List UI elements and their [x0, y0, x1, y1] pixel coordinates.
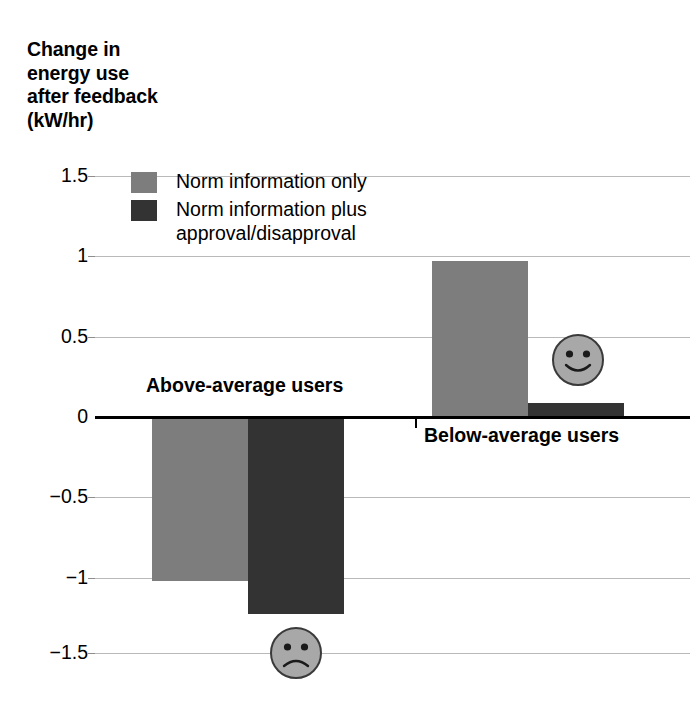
- y-tick-label: −1: [26, 568, 88, 588]
- y-tick-label: 0.5: [26, 327, 88, 347]
- legend-item-label: Norm information plus approval/disapprov…: [176, 198, 367, 245]
- category-label-below-average: Below-average users: [424, 426, 619, 446]
- zero-axis-line: [95, 416, 690, 419]
- y-tick-label: −0.5: [26, 487, 88, 507]
- page-artifact: [70, 8, 74, 28]
- sad-face-icon: [269, 626, 323, 680]
- bar-above-average-norm-plus-approval: [248, 417, 344, 614]
- zero-axis-tick: [415, 419, 417, 428]
- y-tick-label: 0: [26, 407, 88, 427]
- y-tick-label: 1.5: [26, 166, 88, 186]
- legend-item-norm-only: Norm information only: [131, 170, 367, 194]
- y-axis-tick-labels: 1.5 1 0.5 0 −0.5 −1 −1.5: [18, 176, 88, 653]
- legend-swatch-icon: [131, 172, 157, 193]
- gridline: [95, 256, 690, 257]
- y-tick-label: 1: [26, 246, 88, 266]
- y-axis-title: Change in energy use after feedback (kW/…: [27, 38, 287, 132]
- legend-item-norm-plus-approval: Norm information plus approval/disapprov…: [131, 198, 367, 245]
- legend-swatch-icon: [131, 200, 157, 221]
- bar-below-average-norm-only: [432, 261, 528, 417]
- bar-below-average-norm-plus-approval: [528, 403, 624, 417]
- bar-above-average-norm-only: [152, 417, 248, 581]
- gridline: [95, 653, 690, 654]
- plot-area: [95, 176, 690, 653]
- legend-item-label: Norm information only: [176, 170, 367, 194]
- y-tick-label: −1.5: [26, 643, 88, 663]
- category-label-above-average: Above-average users: [146, 376, 343, 396]
- chart-figure: Change in energy use after feedback (kW/…: [0, 0, 700, 712]
- happy-face-icon: [551, 333, 605, 387]
